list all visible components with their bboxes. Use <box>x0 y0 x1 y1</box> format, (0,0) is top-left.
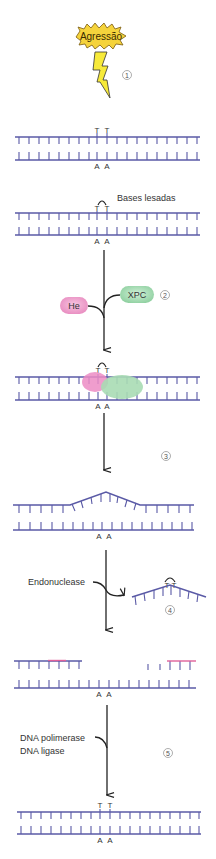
svg-text:T: T <box>105 366 110 375</box>
svg-text:A: A <box>106 532 112 541</box>
step-5-arrow <box>95 705 107 795</box>
excised-fragment: T T <box>132 578 206 605</box>
step-3-marker: 3 <box>162 452 171 461</box>
step-4-arrow <box>93 550 124 630</box>
svg-text:T: T <box>98 801 103 810</box>
svg-text:A: A <box>107 836 113 845</box>
step-2-arrow <box>88 250 120 350</box>
svg-text:A: A <box>96 690 102 699</box>
step-1-marker: 1 <box>123 71 132 80</box>
endonuclease-label: Endonuclease <box>28 577 85 587</box>
he-protein: He <box>60 297 88 314</box>
svg-text:2: 2 <box>163 292 167 299</box>
svg-text:A: A <box>94 237 100 246</box>
svg-text:He: He <box>68 301 80 311</box>
dna-polimerase-label: DNA polimerase <box>20 733 85 743</box>
svg-text:A: A <box>97 836 103 845</box>
bases-lesadas-label: Bases lesadas <box>117 193 176 203</box>
svg-text:A: A <box>104 162 110 171</box>
nucleotide-excision-repair-diagram: Agressão 1 T T A A T T Bases lesadas A A <box>0 0 216 859</box>
svg-text:3: 3 <box>164 453 168 460</box>
dna-unwound: A A <box>13 492 194 541</box>
dna-ligase-label: DNA ligase <box>20 746 65 756</box>
svg-text:XPC: XPC <box>128 290 147 300</box>
step-4-marker: 4 <box>166 606 175 615</box>
svg-text:5: 5 <box>166 750 170 757</box>
svg-text:T: T <box>108 801 113 810</box>
agressao-burst: Agressão <box>76 23 126 49</box>
svg-text:A: A <box>96 532 102 541</box>
svg-text:1: 1 <box>125 72 129 79</box>
xpc-protein: XPC <box>120 286 154 303</box>
svg-text:A: A <box>94 162 100 171</box>
step-2-marker: 2 <box>161 291 170 300</box>
xpc-bound <box>101 375 143 399</box>
svg-text:A: A <box>104 237 110 246</box>
dna-proteins-bound: T T A A <box>15 363 200 411</box>
lightning-icon <box>93 52 110 98</box>
svg-text:A: A <box>95 402 101 411</box>
dna-intact-1: T T A A <box>15 126 200 171</box>
dna-repaired: T T A A <box>17 801 201 845</box>
agressao-label: Agressão <box>80 31 123 42</box>
dna-damaged: T T Bases lesadas A A <box>15 193 200 246</box>
svg-text:A: A <box>106 690 112 699</box>
dna-gapped: A A <box>14 661 196 700</box>
step-5-marker: 5 <box>164 749 173 758</box>
svg-text:4: 4 <box>168 607 172 614</box>
svg-text:A: A <box>104 402 110 411</box>
